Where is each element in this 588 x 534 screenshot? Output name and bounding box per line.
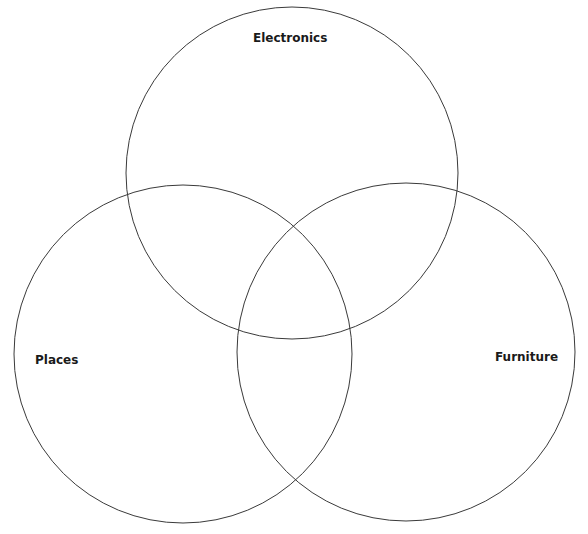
label-furniture: Furniture [495, 350, 558, 364]
venn-diagram: Electronics Places Furniture [0, 0, 588, 534]
label-electronics: Electronics [253, 31, 327, 45]
circle-electronics [126, 7, 458, 339]
label-places: Places [35, 353, 78, 367]
venn-circles [0, 0, 588, 534]
